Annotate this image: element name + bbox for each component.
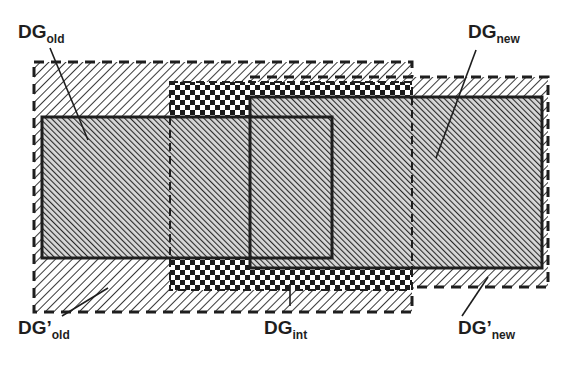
label-subscript: int	[293, 328, 308, 342]
label-dg-prime-old: DG’old	[18, 318, 70, 341]
label-base: DG’	[18, 317, 52, 338]
label-dg-old: DGold	[18, 22, 65, 45]
label-dg-prime-new: DG’new	[458, 318, 515, 341]
label-base: DG	[264, 317, 293, 338]
label-dg-new: DGnew	[468, 22, 520, 45]
label-dg-int: DGint	[264, 318, 307, 341]
label-base: DG	[18, 21, 47, 42]
overlap-interior	[170, 117, 412, 258]
label-subscript: new	[497, 32, 520, 46]
label-subscript: old	[47, 32, 65, 46]
label-subscript: old	[52, 328, 70, 342]
label-subscript: new	[492, 328, 515, 342]
label-base: DG’	[458, 317, 492, 338]
label-base: DG	[468, 21, 497, 42]
